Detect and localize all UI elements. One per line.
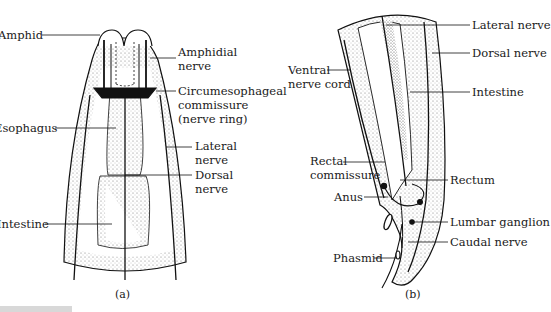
label-lateral-nerve-a-2: nerve <box>195 154 228 167</box>
label-caudal-nerve: Caudal nerve <box>450 236 528 249</box>
label-lateral-nerve-a-1: Lateral <box>195 140 237 153</box>
label-lateral-nerve-b: Lateral nerve <box>472 19 551 32</box>
label-intestine-b: Intestine <box>472 86 524 99</box>
label-ventral-nerve-cord-1: Ventral <box>288 64 330 77</box>
label-rectal-commissure-2: commissure <box>310 169 380 182</box>
label-amphidial-nerve-1: Amphidial <box>178 46 237 59</box>
label-amphidial-nerve-2: nerve <box>178 60 211 73</box>
panel-a-head <box>64 30 186 280</box>
label-circumesophageal-1: Circumesophageal <box>178 85 287 98</box>
cropped-figure-caption-bar <box>0 306 72 312</box>
label-amphid: Amphid <box>0 29 43 42</box>
label-ventral-nerve-cord-2: nerve cord <box>288 78 351 91</box>
label-phasmid: Phasmid <box>333 252 383 265</box>
label-dorsal-nerve-a-1: Dorsal <box>195 169 233 182</box>
label-esophagus: Esophagus <box>0 122 58 135</box>
panel-b-tail <box>338 15 445 288</box>
caption-panel-b: (b) <box>405 288 421 301</box>
label-circumesophageal-3: (nerve ring) <box>178 113 248 126</box>
label-rectal-commissure-1: Rectal <box>310 155 347 168</box>
label-rectum: Rectum <box>450 174 495 187</box>
label-intestine-a: Intestine <box>0 218 49 231</box>
label-dorsal-nerve-b: Dorsal nerve <box>472 47 547 60</box>
caption-panel-a: (a) <box>115 288 130 301</box>
label-anus: Anus <box>334 191 363 204</box>
label-dorsal-nerve-a-2: nerve <box>195 183 228 196</box>
label-circumesophageal-2: commissure <box>178 99 248 112</box>
label-lumbar-ganglion: Lumbar ganglion <box>450 216 550 229</box>
